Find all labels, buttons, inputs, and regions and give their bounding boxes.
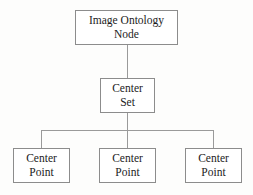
node-image-ontology-node: Image Ontology Node (75, 10, 178, 45)
node-center-point-3: Center Point (185, 148, 242, 183)
node-center-point-2: Center Point (99, 148, 156, 183)
edge-center-set-to-bus (127, 113, 128, 130)
edge-bus-to-center-point-1 (41, 130, 42, 148)
node-center-set: Center Set (100, 78, 155, 113)
edge-root-to-center-set (127, 45, 128, 78)
edge-bus-to-center-point-2 (127, 130, 128, 148)
edge-bus-to-center-point-3 (213, 130, 214, 148)
node-center-point-1: Center Point (13, 148, 70, 183)
ontology-hierarchy-diagram: Image Ontology Node Center Set Center Po… (0, 0, 253, 195)
